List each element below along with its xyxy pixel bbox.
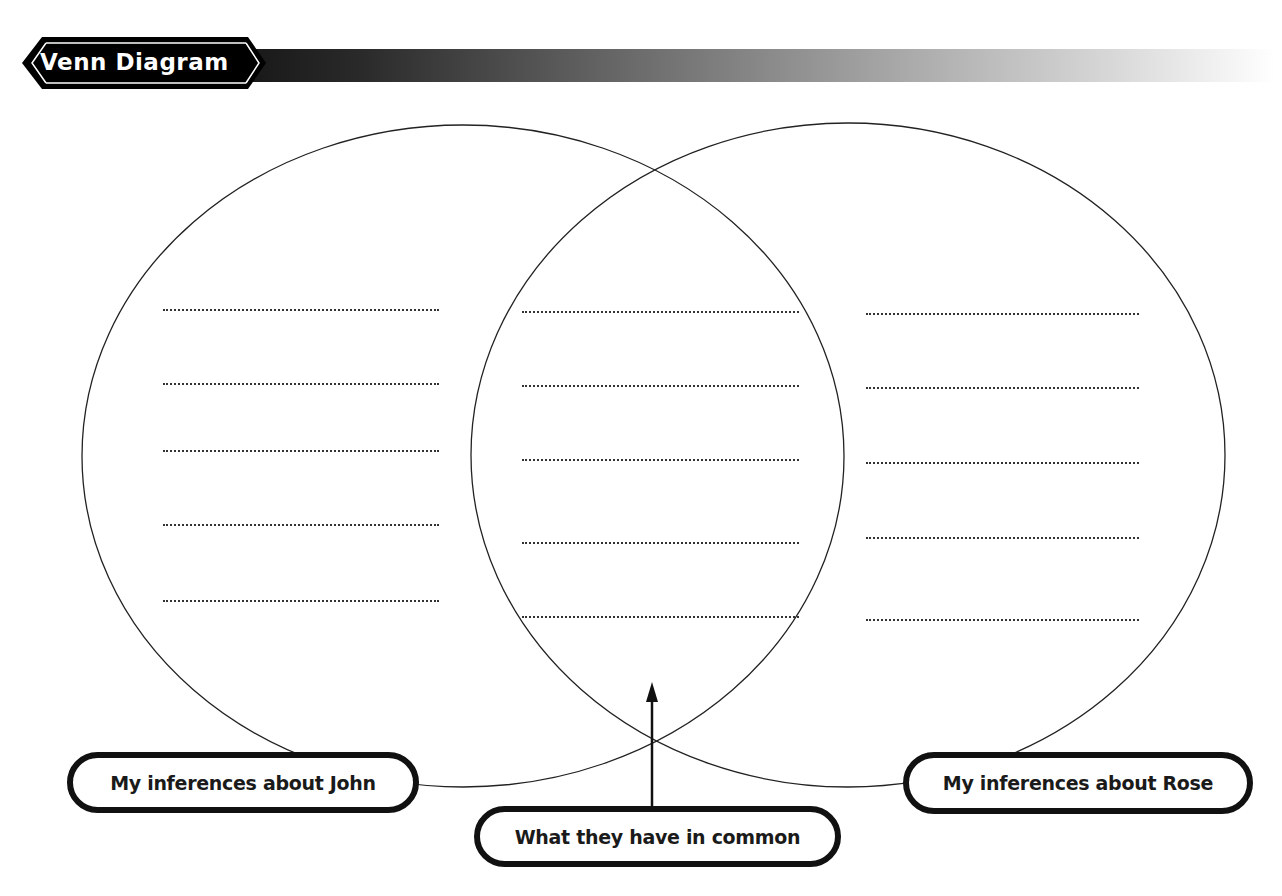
label-common: What they have in common (474, 806, 841, 867)
circle-john (82, 125, 844, 787)
common-line-2[interactable] (522, 385, 799, 387)
john-line-3[interactable] (163, 450, 439, 452)
arrow-head-icon (646, 682, 658, 702)
common-line-4[interactable] (522, 542, 799, 544)
john-line-2[interactable] (163, 383, 439, 385)
label-john: My inferences about John (67, 752, 419, 813)
rose-line-1[interactable] (866, 313, 1139, 315)
john-line-4[interactable] (163, 524, 439, 526)
circle-rose (471, 123, 1225, 787)
common-line-5[interactable] (522, 616, 799, 618)
common-line-1[interactable] (522, 311, 799, 313)
rose-line-3[interactable] (866, 462, 1139, 464)
john-line-1[interactable] (163, 309, 439, 311)
common-line-3[interactable] (522, 459, 799, 461)
label-rose: My inferences about Rose (903, 752, 1253, 814)
rose-line-2[interactable] (866, 387, 1139, 389)
rose-line-5[interactable] (866, 619, 1139, 621)
john-line-5[interactable] (163, 600, 439, 602)
rose-line-4[interactable] (866, 537, 1139, 539)
